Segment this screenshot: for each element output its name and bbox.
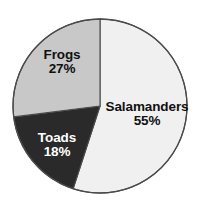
pie-slice-frogs[interactable] — [13, 19, 100, 117]
pie-slices — [13, 19, 187, 193]
pie-chart-canvas — [0, 0, 200, 211]
pie-chart: Salamanders 55% Frogs 27% Toads 18% — [0, 0, 200, 211]
